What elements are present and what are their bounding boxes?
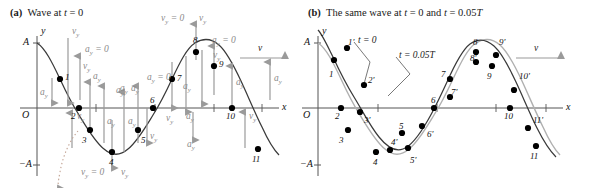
curve-label-t005T: t = 0.05T — [399, 51, 435, 61]
point-label-b-3-prime: 3' — [364, 116, 370, 125]
vector-label-ay-zero-9: ay = 0 — [212, 36, 236, 48]
point-label-7: 7 — [177, 74, 182, 83]
point-label-b-5-prime: 5' — [410, 156, 416, 165]
point-label-8: 8 — [193, 36, 198, 45]
vector-label-ay-2: ay — [93, 72, 101, 84]
point-label-b-9: 9 — [487, 72, 492, 81]
axis-label-x: x — [282, 102, 286, 112]
point-label-b-8: 8 — [473, 38, 478, 47]
point-label-b-1: 1 — [329, 70, 334, 79]
vector-label-ay-zero-6: ay = 0 — [147, 73, 171, 85]
vector-label-vy-1: vy — [83, 62, 90, 74]
point-label-10: 10 — [226, 112, 235, 121]
vector-label-vy-8: vy — [199, 14, 206, 26]
axis-label-origin: O — [22, 110, 29, 120]
point-label-b-8-prime: 8' — [470, 54, 476, 63]
point-label-b-9-prime: 9' — [499, 38, 505, 47]
panel-b-points-t005T — [344, 45, 531, 153]
vector-label-vy-10: vy — [249, 112, 256, 124]
point-label-4: 4 — [109, 158, 114, 167]
point-label-b-6-prime: 6' — [427, 130, 433, 139]
axis-label-y-b: y — [322, 26, 326, 36]
vector-label-ay-4: ay — [128, 117, 136, 129]
point-label-b-10: 10 — [504, 112, 513, 121]
vector-label-ay-left: ay — [40, 88, 48, 100]
vector-label-vy-zero-8: vy = 0 — [161, 14, 184, 26]
point-label-b-11-prime: 11' — [533, 116, 543, 125]
point-label-6: 6 — [150, 96, 155, 105]
vector-label-ay-cluster: ay — [116, 86, 124, 98]
point-label-b-11: 11 — [530, 152, 538, 161]
point-label-b-4-prime: 4' — [391, 138, 397, 147]
point-label-1: 1 — [65, 73, 70, 82]
point-label-b-2-prime: 2' — [368, 76, 374, 85]
vector-label-ay-3: ay — [107, 117, 115, 129]
point-label-b-2: 2 — [335, 112, 340, 121]
axis-label-x-b: x — [566, 102, 570, 112]
panel-wave-at-t0: (a) Wave at t = 0 — [0, 0, 297, 188]
axis-label-origin-b: O — [303, 110, 310, 120]
vector-label-ay-7: ay — [183, 82, 191, 94]
vector-label-ay-8: ay — [186, 112, 194, 124]
panel-b-graphic — [298, 0, 595, 188]
curve-label-t0: t = 0 — [358, 36, 377, 46]
point-label-b-6: 6 — [431, 96, 436, 105]
dotted-motion-arrow — [58, 131, 78, 188]
vector-label-vy-5: vy — [150, 132, 157, 144]
vector-label-vy-9: vy — [213, 51, 220, 63]
vector-label-ay-zero-1: ay = 0 — [85, 45, 109, 57]
point-label-2: 2 — [71, 112, 76, 121]
axis-label-amplitude-positive: A — [23, 37, 29, 47]
point-label-3: 3 — [82, 136, 87, 145]
vector-label-vy-7: vy — [166, 114, 173, 126]
point-label-b-7-prime: 7' — [451, 88, 457, 97]
point-label-b-4: 4 — [373, 158, 378, 167]
vector-label-vy-zero-4: vy = 0 — [81, 168, 104, 180]
vector-label-ay-11: ay — [274, 74, 282, 86]
point-label-11: 11 — [252, 155, 260, 164]
wave-speed-label-b: v — [534, 44, 538, 54]
point-label-5: 5 — [141, 136, 146, 145]
vector-label-vy-4b: vy — [121, 168, 128, 180]
wave-curve-t005T — [318, 30, 556, 157]
axis-label-amplitude-negative: −A — [19, 159, 32, 169]
point-label-b-1-prime: 1' — [348, 38, 354, 47]
panel-same-wave-two-times: (b) The same wave at t = 0 and t = 0.05T — [298, 0, 595, 188]
vector-label-vy-top1: vy — [72, 27, 79, 39]
axis-label-amplitude-negative-b: −A — [300, 159, 313, 169]
point-label-b-7: 7 — [441, 70, 446, 79]
point-label-b-3: 3 — [339, 136, 344, 145]
wave-speed-label: v — [258, 44, 262, 54]
vector-label-vy-2: vy — [77, 112, 84, 124]
axis-label-amplitude-positive-b: A — [304, 37, 310, 47]
point-label-b-10-prime: 10' — [519, 72, 530, 81]
vector-label-ay-9: ay — [187, 140, 195, 152]
axis-label-y: y — [41, 26, 45, 36]
point-label-b-5: 5 — [399, 122, 404, 131]
panel-a-axes — [20, 36, 279, 176]
vector-label-ay-10: ay — [236, 78, 244, 90]
